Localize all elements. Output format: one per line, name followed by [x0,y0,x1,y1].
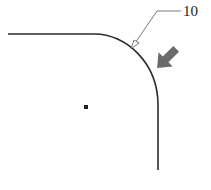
rounded-corner-outline [8,34,158,170]
center-point-dot [84,105,88,109]
diagram-canvas: 10 [0,0,211,190]
leader-line-10 [131,11,181,49]
leader-arrowhead-icon [131,40,139,49]
direction-arrow-icon [150,42,183,75]
reference-numeral-10: 10 [183,3,198,19]
